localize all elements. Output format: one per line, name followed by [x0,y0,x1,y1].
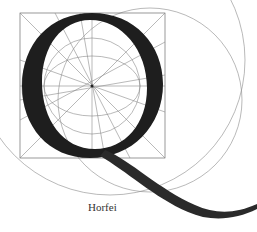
q-letter-tail [100,150,257,218]
figure-caption: Horfei [88,201,117,213]
q-construction-diagram [0,0,257,232]
center-point [91,85,94,88]
